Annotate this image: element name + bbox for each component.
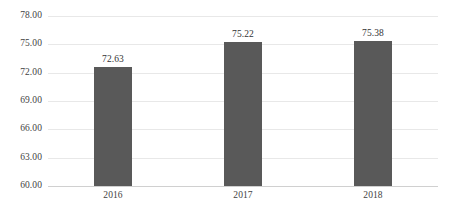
x-tick-label: 2016 [103,190,122,200]
y-tick-label: 78.00 [0,10,42,20]
x-axis: 2016 2017 2018 [48,190,438,210]
y-tick-label: 60.00 [0,180,42,190]
bar-group: 75.22 [224,16,262,186]
bar[interactable] [94,67,132,186]
y-tick-label: 66.00 [0,123,42,133]
plot-area: 72.63 75.22 75.38 [48,16,438,186]
bar-value-label: 75.22 [232,29,254,39]
y-tick-label: 63.00 [0,152,42,162]
bar-group: 72.63 [94,16,132,186]
bar-chart: 78.00 75.00 72.00 69.00 66.00 63.00 60.0… [0,0,449,218]
bar-value-label: 75.38 [362,28,384,38]
bar[interactable] [224,42,262,186]
y-tick-label: 69.00 [0,95,42,105]
y-axis: 78.00 75.00 72.00 69.00 66.00 63.00 60.0… [0,0,44,218]
x-axis-line [48,186,438,187]
x-tick-label: 2018 [363,190,382,200]
y-tick-label: 72.00 [0,67,42,77]
bar[interactable] [354,41,392,186]
y-tick-label: 75.00 [0,38,42,48]
x-tick-label: 2017 [233,190,252,200]
bar-group: 75.38 [354,16,392,186]
bar-value-label: 72.63 [102,54,124,64]
